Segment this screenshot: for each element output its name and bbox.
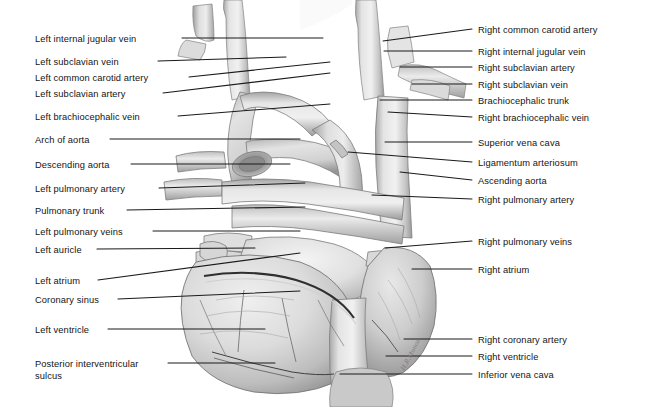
label-right-internal-jugular-vein: Right internal jugular vein [478,47,586,58]
label-left-pulmonary-artery: Left pulmonary artery [35,184,125,195]
label-right-brachiocephalic-vein: Right brachiocephalic vein [478,113,589,124]
label-right-coronary-artery: Right coronary artery [478,335,567,346]
label-pulmonary-trunk: Pulmonary trunk [35,206,104,217]
label-right-subclavian-artery: Right subclavian artery [478,63,575,74]
label-left-common-carotid-artery: Left common carotid artery [35,73,148,84]
label-left-ventricle: Left ventricle [35,325,89,336]
label-left-pulmonary-veins: Left pulmonary veins [35,227,123,238]
label-superior-vena-cava: Superior vena cava [478,138,560,149]
label-right-common-carotid-artery: Right common carotid artery [478,25,597,36]
label-arch-of-aorta: Arch of aorta [35,135,90,146]
label-right-pulmonary-veins: Right pulmonary veins [478,237,572,248]
label-right-pulmonary-artery: Right pulmonary artery [478,195,574,206]
label-layer: Left internal jugular vein Left subclavi… [0,0,652,407]
label-right-ventricle: Right ventricle [478,352,538,363]
label-left-brachiocephalic-vein: Left brachiocephalic vein [35,112,140,123]
label-left-atrium: Left atrium [35,276,80,287]
heart-anatomy-figure: Left internal jugular vein Left subclavi… [0,0,652,407]
label-descending-aorta: Descending aorta [35,160,109,171]
label-posterior-interventricular-sulcus-line1: Posterior interventricular [35,359,138,370]
label-left-subclavian-artery: Left subclavian artery [35,89,126,100]
label-left-auricle: Left auricle [35,245,82,256]
label-brachiocephalic-trunk: Brachiocephalic trunk [478,96,569,107]
label-right-atrium: Right atrium [478,265,529,276]
label-inferior-vena-cava: Inferior vena cava [478,370,554,381]
artist-signature: H.R.Munoz [399,337,422,371]
label-left-subclavian-vein: Left subclavian vein [35,57,119,68]
label-left-internal-jugular-vein: Left internal jugular vein [35,34,136,45]
label-coronary-sinus: Coronary sinus [35,295,99,306]
label-right-subclavian-vein: Right subclavian vein [478,80,568,91]
label-ligamentum-arteriosum: Ligamentum arteriosum [478,158,578,169]
label-ascending-aorta: Ascending aorta [478,176,547,187]
label-posterior-interventricular-sulcus-line2: sulcus [35,371,62,382]
